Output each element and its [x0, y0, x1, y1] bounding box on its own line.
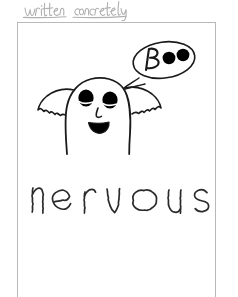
annotation-ink — [22, 0, 218, 24]
speech-bubble-dot-1 — [163, 52, 176, 64]
letter-o — [133, 190, 157, 210]
illustration-area: ghost — [17, 22, 216, 297]
ghost-with-speech-bubble: ghost — [17, 22, 216, 176]
handwritten-annotation: written concretely — [22, 0, 218, 24]
letter-v — [107, 189, 120, 213]
letter-u-right — [180, 190, 181, 213]
ghost-body — [65, 78, 130, 154]
ghost-ink — [17, 22, 216, 172]
letter-u-left — [168, 190, 181, 212]
word-art-ink — [17, 172, 216, 232]
word-art-nervous: nervous — [17, 172, 216, 236]
speech-bubble-dot-2 — [177, 49, 190, 61]
letter-n-stem — [32, 188, 33, 212]
letter-n-arch — [33, 188, 44, 213]
letter-r-arm — [84, 189, 95, 196]
letter-s — [194, 190, 208, 212]
letter-e — [52, 190, 70, 209]
